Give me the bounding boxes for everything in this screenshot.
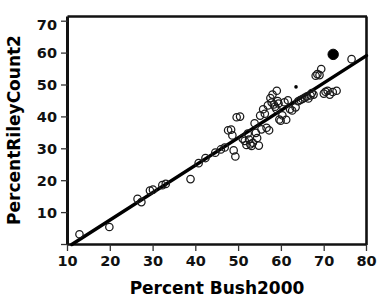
- data-point: [255, 142, 262, 149]
- series-highlighted-county: [328, 49, 338, 59]
- data-point: [259, 106, 266, 113]
- x-tick-label: 10: [57, 253, 77, 269]
- data-point: [253, 134, 260, 141]
- data-point: [348, 55, 355, 62]
- y-tick-label: 10: [37, 205, 57, 221]
- x-tick-label: 50: [229, 253, 249, 269]
- data-point: [187, 175, 194, 182]
- x-tick-label: 80: [356, 253, 376, 269]
- y-tick-label: 30: [37, 141, 57, 157]
- series-counties: [76, 55, 355, 238]
- y-tick-label: 50: [37, 77, 57, 93]
- x-axis-tick-labels: 10 20 30 40 50 60 70 80: [57, 253, 376, 269]
- series-small-point: [294, 85, 298, 89]
- x-tick-label: 20: [100, 253, 120, 269]
- data-point: [261, 110, 268, 117]
- y-axis-tick-labels: 70 60 50 40 30 20 10: [37, 17, 57, 221]
- x-tick-label: 70: [314, 253, 334, 269]
- plot-frame: [68, 17, 368, 246]
- data-point: [76, 231, 83, 238]
- plot-canvas: 70 60 50 40 30 20 10 10 20 30 40 50 60: [0, 0, 391, 308]
- x-tick-label: 40: [186, 253, 206, 269]
- y-axis-title: PercentRileyCount2: [4, 35, 24, 225]
- regression-line-segment: [72, 56, 367, 245]
- data-point-small: [294, 85, 298, 89]
- data-point: [106, 223, 113, 230]
- y-tick-label: 40: [37, 109, 57, 125]
- x-tick-label: 60: [271, 253, 291, 269]
- data-points-layer: [76, 49, 355, 238]
- scatter-plot-figure: 70 60 50 40 30 20 10 10 20 30 40 50 60: [0, 0, 391, 308]
- y-tick-label: 70: [37, 17, 57, 33]
- y-tick-label: 20: [37, 173, 57, 189]
- data-point-highlighted: [328, 49, 338, 59]
- x-axis-title: Percent Bush2000: [130, 278, 305, 298]
- data-point: [258, 126, 265, 133]
- regression-line: [72, 56, 367, 245]
- y-tick-label: 60: [37, 45, 57, 61]
- x-tick-label: 30: [143, 253, 163, 269]
